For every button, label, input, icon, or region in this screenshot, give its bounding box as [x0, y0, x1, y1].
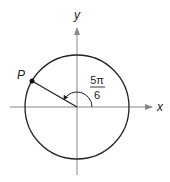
angle-arc — [64, 92, 92, 107]
y-axis-label: y — [73, 8, 81, 22]
angle-denominator: 6 — [94, 89, 100, 101]
point-p-dot — [30, 79, 35, 84]
x-axis-label: x — [156, 100, 164, 114]
angle-numerator: 5π — [90, 74, 104, 86]
point-p-label: P — [17, 68, 25, 82]
unit-circle-diagram: y x P 5π 6 — [0, 0, 170, 182]
